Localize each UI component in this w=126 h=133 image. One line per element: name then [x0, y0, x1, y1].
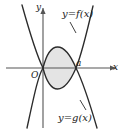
label-f-leader [70, 22, 76, 33]
math-figure: y=f(x) y=g(x) a O y x [0, 0, 126, 133]
label-g-leader [80, 100, 86, 110]
x-intercept-label-a: a [76, 59, 81, 68]
curve-label-g: y=g(x) [58, 113, 92, 123]
y-axis-arrowhead [40, 8, 45, 14]
origin-label: O [31, 71, 38, 80]
y-axis-label: y [36, 3, 41, 12]
x-axis-label: x [113, 63, 118, 72]
curve-label-f: y=f(x) [62, 9, 93, 19]
